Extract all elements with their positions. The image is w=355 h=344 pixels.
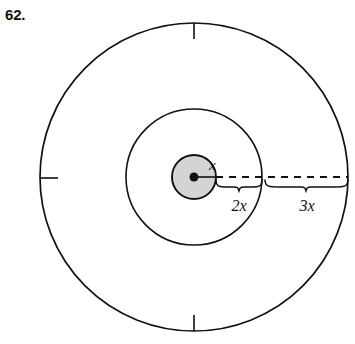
label-inner-radius-x: x: [208, 157, 216, 173]
figure-root: 62. x 2x 3x: [0, 0, 355, 344]
brace-3x: [265, 180, 348, 191]
brace-2x: [216, 180, 262, 191]
label-segment-3x: 3x: [298, 197, 314, 214]
concentric-circles-diagram: x 2x 3x: [0, 0, 355, 344]
center-dot: [190, 173, 199, 182]
label-segment-2x: 2x: [231, 197, 246, 214]
